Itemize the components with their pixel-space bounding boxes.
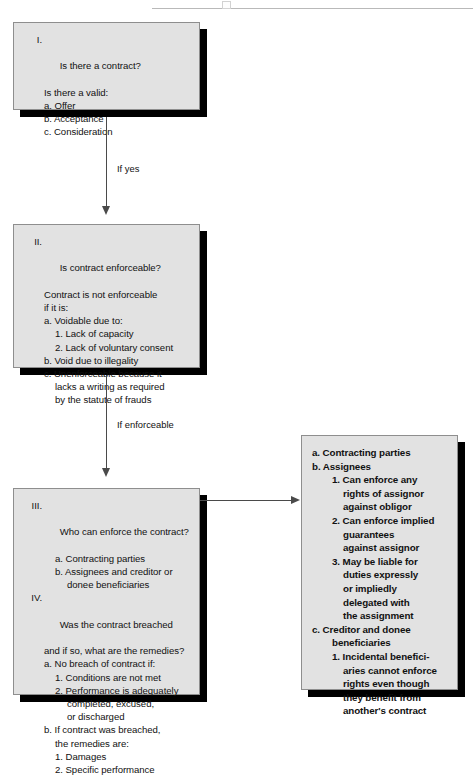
node-contract-roman: I.: [24, 33, 42, 46]
node-contract-line-1: I. Is there a contract?: [24, 33, 191, 86]
node-enforceable-line-4: a. Voidable due to:: [24, 314, 191, 327]
node-enforceable-line-8: c. Unenforceable because it: [24, 367, 191, 380]
node-who-enforce-line-7: guarantees: [312, 528, 449, 542]
node-enforce-breach-body: III. Who can enforce the contract? a. Co…: [14, 489, 199, 779]
node-enforce-breach-roman-iv: IV.: [24, 591, 42, 604]
page-top-rule: [152, 8, 473, 9]
node-who-enforce-line-4: rights of assignor: [312, 487, 449, 501]
page-top-artifact: [222, 1, 231, 9]
node-enforce-breach-text-1: Who can enforce the contract?: [60, 526, 189, 537]
node-enforce-breach-line-13: the remedies are:: [24, 737, 191, 750]
node-enforce-breach-line-7: a. No breach of contract if:: [24, 657, 191, 670]
node-enforce-breach-line-6: and if so, what are the remedies?: [24, 644, 191, 657]
node-who-can-enforce-detail: a. Contracting parties b. Assignees 1. C…: [301, 435, 458, 690]
node-who-enforce-line-13: the assignment: [312, 609, 449, 623]
node-enforce-breach-line-11: or discharged: [24, 710, 191, 723]
edge-enforceable-arrowhead-icon: [102, 468, 110, 477]
node-who-enforce-body: a. Contracting parties b. Assignees 1. C…: [302, 436, 457, 726]
node-is-contract-enforceable: II. Is contract enforceable? Contract is…: [13, 224, 200, 368]
node-enforceable-line-2: Contract is not enforceable: [24, 288, 191, 301]
node-enforceable-line-6: 2. Lack of voluntary consent: [24, 341, 191, 354]
node-enforceable-line-9: lacks a writing as required: [24, 380, 191, 393]
node-enforce-breach-line-1: III. Who can enforce the contract?: [24, 499, 191, 552]
node-who-enforce-line-16: 1. Incidental benefici-: [312, 650, 449, 664]
node-contract-line-2: Is there a valid:: [24, 86, 191, 99]
edge-yes-arrowhead-icon: [102, 206, 110, 215]
node-enforce-breach-roman-iii: III.: [24, 499, 42, 512]
node-contract-line-5: c. Consideration: [24, 125, 191, 138]
node-who-enforce-line-17: aries cannot enforce: [312, 664, 449, 678]
node-enforce-breach-text-5: Was the contract breached: [60, 619, 173, 630]
node-enforce-breach-line-10: completed, excused,: [24, 697, 191, 710]
node-who-enforce-line-3: 1. Can enforce any: [312, 473, 449, 487]
node-enforce-breach-line-2: a. Contracting parties: [24, 552, 191, 565]
node-enforce-breach-line-9: 2. Performance is adequately: [24, 684, 191, 697]
node-enforceable-roman: II.: [24, 235, 42, 248]
node-enforce-breach-line-3: b. Assignees and creditor or: [24, 565, 191, 578]
node-who-enforce-line-11: or impliedly: [312, 582, 449, 596]
node-enforceable-line-5: 1. Lack of capacity: [24, 327, 191, 340]
node-enforce-breach-line-15: 2. Specific performance: [24, 763, 191, 776]
node-who-enforce-line-19: they benefit from: [312, 691, 449, 705]
node-who-enforce-line-8: against assignor: [312, 541, 449, 555]
edge-yes-line: [106, 117, 107, 208]
node-enforce-breach-line-5: IV. Was the contract breached: [24, 591, 191, 644]
node-enforce-breach-line-4: donee beneficiaries: [24, 578, 191, 591]
node-enforceable-line-7: b. Void due to illegality: [24, 354, 191, 367]
node-who-enforce-line-14: c. Creditor and donee: [312, 623, 449, 637]
edge-to-who-enforce-arrowhead-icon: [291, 496, 300, 504]
node-who-enforce-line-12: delegated with: [312, 596, 449, 610]
node-who-enforce-line-9: 3. May be liable for: [312, 555, 449, 569]
node-enforce-breach-line-12: b. If contract was breached,: [24, 723, 191, 736]
node-contract-text-1: Is there a contract?: [60, 60, 141, 71]
node-enforceable-text-1: Is contract enforceable?: [60, 262, 161, 273]
node-who-enforce-line-6: 2. Can enforce implied: [312, 514, 449, 528]
node-enforceable-line-10: by the statute of frauds: [24, 393, 191, 406]
node-who-enforce-line-18: rights even though: [312, 677, 449, 691]
edge-enforceable-label: If enforceable: [117, 419, 174, 431]
node-who-enforce-line-10: duties expressly: [312, 568, 449, 582]
edge-yes-label: If yes: [117, 163, 139, 175]
edge-to-who-enforce-line: [200, 500, 292, 501]
node-enforceable-line-1: II. Is contract enforceable?: [24, 235, 191, 288]
edge-enforceable-line: [106, 375, 107, 470]
node-enforce-breach-line-8: 1. Conditions are not met: [24, 671, 191, 684]
node-is-there-a-contract: I. Is there a contract? Is there a valid…: [13, 22, 200, 110]
node-who-enforce-line-5: against obligor: [312, 500, 449, 514]
node-who-can-enforce-and-breach: III. Who can enforce the contract? a. Co…: [13, 488, 200, 695]
node-who-enforce-line-15: beneficiaries: [312, 636, 449, 650]
node-who-enforce-line-1: a. Contracting parties: [312, 446, 449, 460]
node-contract-line-3: a. Offer: [24, 99, 191, 112]
node-who-enforce-line-2: b. Assignees: [312, 460, 449, 474]
node-who-enforce-line-20: another's contract: [312, 704, 449, 718]
node-contract-line-4: b. Acceptance: [24, 112, 191, 125]
node-enforceable-line-3: if it is:: [24, 301, 191, 314]
node-enforce-breach-line-14: 1. Damages: [24, 750, 191, 763]
